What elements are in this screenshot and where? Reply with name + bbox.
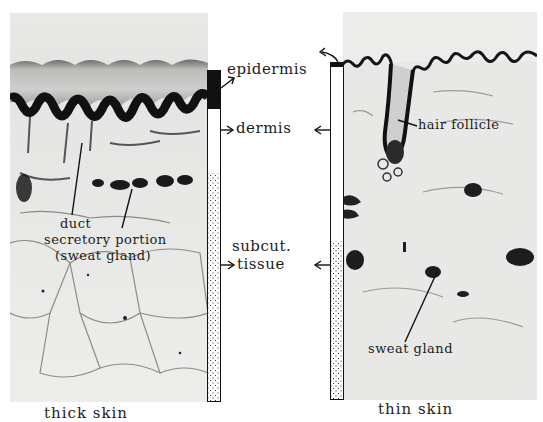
- label-dermis: dermis: [236, 121, 291, 136]
- annotation-sweat-gland-thick: (sweat gland): [55, 249, 151, 262]
- annotation-duct: duct: [60, 217, 91, 230]
- annotation-secretory-portion: secretory portion: [44, 233, 167, 246]
- subcutaneous-segment: [331, 241, 343, 399]
- dermis-segment: [208, 109, 220, 173]
- subcutaneous-segment: [208, 173, 220, 401]
- thick-skin-micrograph: [10, 13, 208, 402]
- caption-thin-skin: thin skin: [378, 402, 453, 417]
- caption-thick-skin: thick skin: [44, 406, 128, 421]
- annotation-sweat-gland-thin: sweat gland: [368, 342, 453, 355]
- label-epidermis: epidermis: [227, 62, 307, 77]
- annotation-hair-follicle: hair follicle: [418, 118, 499, 131]
- thin-skin-layer-scale: [330, 62, 344, 400]
- epidermis-segment: [208, 71, 220, 109]
- label-tissue: tissue: [237, 257, 285, 272]
- dermis-segment: [331, 67, 343, 241]
- thick-skin-layer-scale: [207, 70, 221, 402]
- label-subcut: subcut.: [232, 239, 291, 254]
